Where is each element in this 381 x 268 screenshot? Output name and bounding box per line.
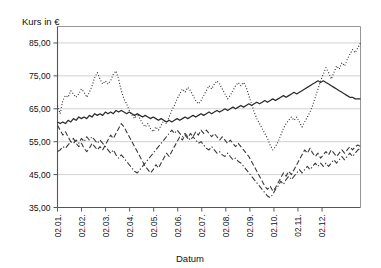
x-tick-label: 02.04. [126,215,135,238]
y-axis-title: Kurs in € [22,16,60,27]
y-tick-label: 45,00 [29,170,51,180]
y-tick-label: 75,00 [29,71,51,81]
x-tick-label: 02.05. [150,215,159,238]
x-tick-label: 02.11. [294,215,303,237]
x-tick-label: 02.09. [246,215,255,238]
y-tick-label: 55,00 [29,137,51,147]
x-tick-label: 02.07. [198,215,207,238]
x-tick-label: 02.02. [78,215,87,238]
x-tick-label: 02.03. [102,215,111,238]
x-tick-label: 02.12. [318,215,327,238]
x-tick-label: 02.06. [174,215,183,238]
y-tick-label: 65,00 [29,104,51,114]
y-tick-label: 85,00 [29,38,51,48]
y-tick-label: 35,00 [29,203,51,213]
x-tick-label: 02.01. [54,215,63,238]
x-tick-label: 02.08. [222,215,231,238]
line-chart: 35,0045,0055,0065,0075,0085,00 02.01.02.… [0,0,381,268]
x-axis-title: Datum [176,253,204,264]
chart-figure: 35,0045,0055,0065,0075,0085,00 02.01.02.… [0,0,381,268]
x-tick-label: 02.10. [270,215,279,238]
